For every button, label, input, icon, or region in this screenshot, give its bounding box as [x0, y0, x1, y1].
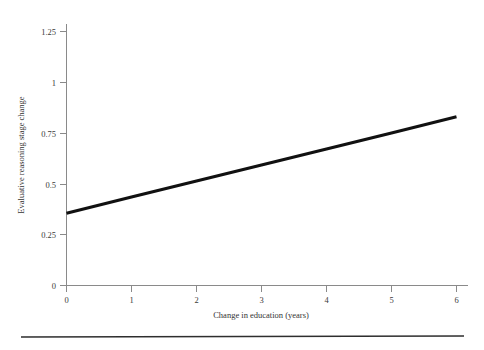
- y-tick-label: 0.25: [41, 230, 56, 240]
- x-tick-label: 5: [389, 295, 393, 305]
- x-tick-label: 4: [324, 295, 329, 305]
- footer-divider: [21, 336, 464, 337]
- x-axis-ticks: [67, 286, 457, 293]
- line-chart: 1.25 1 0.75 0.5 0.25 0 0 1 2 3 4 5 6: [0, 0, 484, 350]
- y-axis-title: Evaluative reasoning stage change: [16, 96, 26, 214]
- x-tick-label: 3: [259, 295, 263, 305]
- y-tick-label: 0.5: [45, 180, 56, 190]
- y-axis-ticks: [60, 32, 67, 286]
- x-tick-label: 6: [454, 295, 458, 305]
- y-tick-label: 0.75: [41, 129, 56, 139]
- regression-line: [67, 117, 457, 214]
- x-axis-title: Change in education (years): [213, 310, 309, 320]
- x-tick-label: 0: [64, 295, 68, 305]
- x-tick-label: 2: [194, 295, 198, 305]
- y-axis-tick-labels: 1.25 1 0.75 0.5 0.25 0: [41, 27, 56, 291]
- y-tick-label: 1: [52, 78, 56, 88]
- y-tick-label: 0: [52, 281, 56, 291]
- figure-container: 1.25 1 0.75 0.5 0.25 0 0 1 2 3 4 5 6: [0, 0, 484, 350]
- x-axis-tick-labels: 0 1 2 3 4 5 6: [64, 295, 458, 305]
- x-tick-label: 1: [129, 295, 133, 305]
- y-tick-label: 1.25: [41, 27, 56, 37]
